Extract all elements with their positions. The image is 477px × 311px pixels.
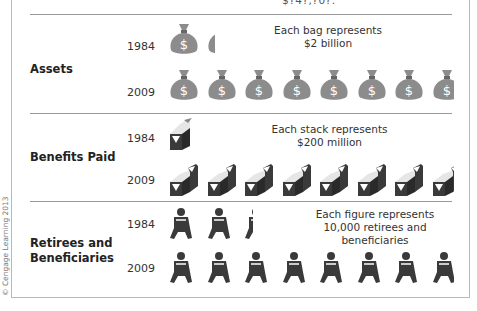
separator-line <box>30 201 452 202</box>
icon-row-benefits-2009 <box>168 164 454 198</box>
year-label-1984: 1984 <box>127 132 155 145</box>
money-bag-icon: $ <box>168 68 200 102</box>
category-label-line: Retirees and <box>30 236 114 251</box>
person-figure-icon <box>243 208 253 242</box>
icon-row-assets-2009: $$$$$$$$ <box>168 68 454 102</box>
money-bag-icon: $ <box>281 68 313 102</box>
cash-stack-icon <box>168 164 200 198</box>
year-label-2009: 2009 <box>127 262 155 275</box>
money-bag-icon: $ <box>318 68 350 102</box>
svg-text:$: $ <box>442 83 450 98</box>
person-figure-icon <box>356 252 388 286</box>
person-figure-icon <box>431 252 455 286</box>
cash-stack-icon <box>206 164 238 198</box>
person-figure-icon <box>168 252 200 286</box>
year-label-1984: 1984 <box>127 40 155 53</box>
separator-line <box>30 113 452 114</box>
money-bag-icon: $ <box>431 68 455 102</box>
svg-text:$: $ <box>330 83 338 98</box>
money-bag-icon: $ <box>356 68 388 102</box>
category-label-line: Beneficiaries <box>30 251 114 266</box>
separator-line <box>30 14 452 15</box>
top-caption-fragment: $?4?,?0?. <box>282 0 336 6</box>
cash-stack-icon <box>281 164 313 198</box>
money-bag-icon: $ <box>206 68 238 102</box>
cash-stack-icon <box>431 164 455 198</box>
person-figure-icon <box>168 208 200 242</box>
svg-text:$: $ <box>217 83 225 98</box>
svg-text:$: $ <box>292 83 300 98</box>
person-figure-icon <box>318 252 350 286</box>
icon-row-retirees-1984 <box>168 208 454 242</box>
money-bag-icon: $ <box>168 22 200 56</box>
category-label-retirees-and-beneficiaries: Retirees and Beneficiaries <box>30 236 114 266</box>
person-figure-icon <box>206 252 238 286</box>
person-figure-icon <box>281 252 313 286</box>
svg-text:$: $ <box>255 83 263 98</box>
icon-row-retirees-2009 <box>168 252 454 286</box>
svg-text:$: $ <box>405 83 413 98</box>
icon-row-benefits-1984 <box>168 118 454 152</box>
year-label-2009: 2009 <box>127 86 155 99</box>
money-bag-icon: $ <box>393 68 425 102</box>
year-label-2009: 2009 <box>127 174 155 187</box>
year-label-1984: 1984 <box>127 218 155 231</box>
person-figure-icon <box>393 252 425 286</box>
icon-row-assets-1984: $$ <box>168 22 454 56</box>
copyright-notice: © Cengage Learning 2013 <box>1 196 10 296</box>
category-label-assets: Assets <box>30 62 73 77</box>
money-bag-icon: $ <box>243 68 275 102</box>
money-bag-icon: $ <box>206 22 216 56</box>
category-label-benefits-paid: Benefits Paid <box>30 150 115 165</box>
svg-text:$: $ <box>180 37 188 52</box>
cash-stack-icon <box>243 164 275 198</box>
cash-stack-icon <box>356 164 388 198</box>
cash-stack-icon <box>393 164 425 198</box>
person-figure-icon <box>206 208 238 242</box>
cash-stack-icon <box>318 164 350 198</box>
svg-text:$: $ <box>367 83 375 98</box>
svg-text:$: $ <box>180 83 188 98</box>
person-figure-icon <box>243 252 275 286</box>
cash-stack-icon <box>168 118 200 152</box>
